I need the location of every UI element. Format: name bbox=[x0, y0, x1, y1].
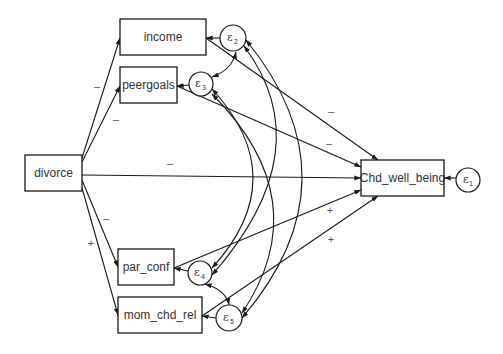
e3-symbol: ε bbox=[195, 77, 201, 90]
sign-divorce-peergoals: – bbox=[113, 113, 120, 125]
path-parconf-chd bbox=[174, 190, 361, 268]
cov-e3-e5 bbox=[212, 94, 274, 313]
sign-divorce-parconf: – bbox=[103, 212, 110, 224]
e2-symbol: ε bbox=[227, 31, 233, 44]
path-diagram: divorce income peergoals par_conf mom_ch… bbox=[0, 0, 503, 354]
box-divorce[interactable]: divorce bbox=[25, 155, 82, 191]
label-income: income bbox=[144, 30, 183, 44]
path-e3-peergoals bbox=[177, 85, 189, 86]
e5-symbol: ε bbox=[223, 311, 229, 324]
error-e4[interactable]: ε 4 bbox=[188, 261, 212, 285]
path-divorce-chd bbox=[82, 175, 361, 178]
e1-sub: 1 bbox=[469, 180, 473, 187]
e4-sub: 4 bbox=[201, 273, 205, 280]
box-income[interactable]: income bbox=[120, 19, 206, 55]
box-chd-well-being[interactable]: Chd_well_being bbox=[360, 160, 445, 196]
sign-parconf-chd: + bbox=[327, 204, 333, 216]
error-e2[interactable]: ε 2 bbox=[220, 25, 246, 51]
sign-peergoals-chd: – bbox=[326, 137, 333, 149]
sign-divorce-chd: – bbox=[167, 157, 174, 169]
path-peergoals-chd bbox=[177, 86, 361, 167]
e3-sub: 3 bbox=[202, 84, 206, 91]
cov-e2-e3 bbox=[212, 52, 236, 77]
box-mom-chd-rel[interactable]: mom_chd_rel bbox=[118, 297, 202, 333]
cov-e2-e4 bbox=[212, 46, 276, 275]
label-peergoals: peergoals bbox=[122, 78, 175, 92]
error-e1[interactable]: ε 1 bbox=[456, 168, 480, 192]
path-divorce-momchd bbox=[82, 188, 118, 315]
cov-e4-e5 bbox=[205, 284, 229, 305]
box-peergoals[interactable]: peergoals bbox=[120, 67, 177, 103]
e2-sub: 2 bbox=[234, 38, 238, 45]
sign-income-chd: – bbox=[328, 105, 335, 117]
label-par-conf: par_conf bbox=[123, 260, 170, 274]
error-e3[interactable]: ε 3 bbox=[189, 72, 213, 96]
label-mom-chd-rel: mom_chd_rel bbox=[124, 308, 197, 322]
path-divorce-parconf bbox=[82, 180, 118, 267]
sign-divorce-momchd: + bbox=[88, 237, 94, 249]
sign-divorce-income: – bbox=[94, 80, 101, 92]
label-chd-well-being: Chd_well_being bbox=[360, 171, 445, 185]
sign-labels: – – – – + – – + + bbox=[88, 80, 335, 249]
path-income-chd bbox=[206, 38, 378, 160]
label-divorce: divorce bbox=[34, 166, 73, 180]
covariance-arcs bbox=[205, 40, 302, 318]
cov-e2-e5 bbox=[242, 40, 302, 318]
path-e5-momchd bbox=[202, 316, 216, 318]
e4-symbol: ε bbox=[194, 266, 200, 279]
sign-momchd-chd: + bbox=[328, 233, 334, 245]
path-e4-parconf bbox=[174, 268, 188, 271]
box-par-conf[interactable]: par_conf bbox=[118, 249, 174, 285]
error-e5[interactable]: ε 5 bbox=[216, 305, 242, 331]
e5-sub: 5 bbox=[230, 318, 234, 325]
